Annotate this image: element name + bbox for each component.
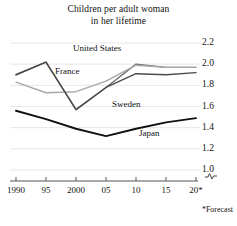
series-label-france: France: [55, 67, 80, 76]
series-label-sweden: Sweden: [112, 100, 141, 109]
chart-root: Children per adult woman in her lifetime…: [0, 0, 237, 226]
y-axis-tick-label: 1.2: [202, 144, 232, 154]
y-axis-tick-label: 2.2: [202, 38, 232, 48]
series-line-japan: [16, 111, 196, 136]
series-line-france: [16, 65, 196, 93]
y-axis-tick-label: 2.0: [202, 59, 232, 69]
y-axis-tick-label: 1.8: [202, 80, 232, 90]
x-axis-tick-label: 20*: [176, 186, 216, 195]
axis-break-icon: [205, 172, 217, 182]
forecast-footnote: *Forecast: [202, 205, 233, 214]
series-line-united-states: [16, 62, 196, 110]
series-label-japan: Japan: [139, 129, 160, 138]
y-axis-tick-label: 1.4: [202, 123, 232, 133]
series-line-sweden: [16, 62, 196, 110]
y-axis-tick-label: 1.6: [202, 102, 232, 112]
series-label-united-states: United States: [73, 44, 121, 53]
